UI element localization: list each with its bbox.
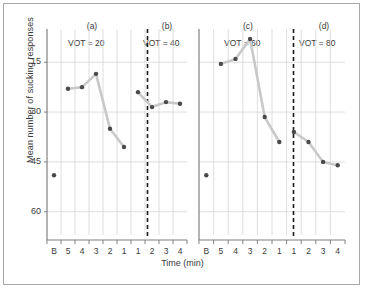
x-tick-label: 4 (174, 246, 186, 256)
x-tick-label: 2 (303, 246, 315, 256)
data-point (52, 173, 56, 177)
data-point (321, 160, 325, 164)
x-tick-label: 2 (259, 246, 271, 256)
x-tick-label: 1 (132, 246, 144, 256)
x-tick-label: 3 (244, 246, 256, 256)
data-point (136, 90, 140, 94)
data-series (52, 37, 340, 178)
x-tick-label: 4 (332, 246, 344, 256)
data-point (263, 115, 267, 119)
y-tick-label: 45 (23, 156, 41, 166)
data-point (122, 145, 126, 149)
data-point (164, 100, 168, 104)
series-line-1 (68, 74, 124, 147)
data-point (150, 105, 154, 109)
data-point (306, 140, 310, 144)
y-tick-label: 60 (23, 206, 41, 216)
data-point (80, 85, 84, 89)
x-tick-label: 1 (273, 246, 285, 256)
data-point (233, 57, 237, 61)
x-tick-label: B (200, 246, 212, 256)
x-tick-label: 5 (62, 246, 74, 256)
x-tick-label: 4 (76, 246, 88, 256)
grid-lines (47, 29, 345, 235)
chart-root: Mean number of sucking responses Time (m… (0, 0, 365, 290)
data-point (292, 130, 296, 134)
x-tick-label: 3 (160, 246, 172, 256)
data-point (94, 72, 98, 76)
x-tick-label: 1 (118, 246, 130, 256)
data-point (66, 87, 70, 91)
x-tick-label: 5 (215, 246, 227, 256)
x-tick-label: 2 (146, 246, 158, 256)
series-line-3 (221, 39, 279, 142)
x-tick-label: 3 (317, 246, 329, 256)
data-point (277, 140, 281, 144)
x-tick-label: 2 (104, 246, 116, 256)
x-tick-label: 3 (90, 246, 102, 256)
x-tick-label: 4 (230, 246, 242, 256)
data-point (219, 62, 223, 66)
x-tick-label: 1 (288, 246, 300, 256)
y-tick-label: 15 (23, 56, 41, 66)
y-tick-label: 30 (23, 106, 41, 116)
data-point (336, 163, 340, 167)
data-point (108, 126, 112, 130)
data-point (204, 173, 208, 177)
x-tick-label: B (48, 246, 60, 256)
data-point (178, 102, 182, 106)
data-point (248, 37, 252, 41)
